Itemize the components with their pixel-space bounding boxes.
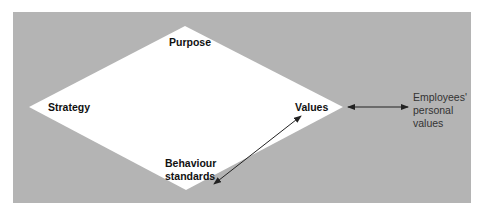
external-employees-line3: values <box>413 117 443 130</box>
node-behaviour-line1: Behaviour <box>165 157 216 170</box>
external-employees-line1: Employees' <box>413 91 467 104</box>
node-purpose: Purpose <box>169 36 211 49</box>
node-behaviour-line2: standards <box>165 170 215 183</box>
node-values: Values <box>295 101 328 114</box>
external-employees-line2: personal <box>413 104 453 117</box>
node-strategy: Strategy <box>48 101 90 114</box>
diamond-diagram: Purpose Strategy Values Behaviour standa… <box>0 0 486 212</box>
